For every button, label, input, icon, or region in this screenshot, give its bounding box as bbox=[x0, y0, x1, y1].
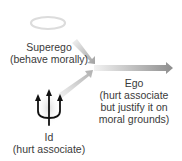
id-label: Id (hurt associate) bbox=[0, 131, 98, 155]
ego-line-1: (hurt associate bbox=[92, 89, 176, 101]
superego-label: Superego (behave morally) bbox=[0, 41, 98, 65]
id-title: Id bbox=[0, 131, 98, 143]
ego-label: Ego (hurt associate but justify it on mo… bbox=[92, 77, 176, 125]
halo-icon bbox=[31, 17, 65, 29]
superego-subtitle: (behave morally) bbox=[0, 53, 98, 65]
ego-title: Ego bbox=[92, 77, 176, 89]
id-subtitle: (hurt associate) bbox=[0, 143, 98, 155]
ego-line-3: moral grounds) bbox=[92, 113, 176, 125]
id-to-ego-arrow bbox=[58, 70, 93, 98]
ego-line-2: but justify it on bbox=[92, 101, 176, 113]
superego-title: Superego bbox=[0, 41, 98, 53]
ego-arrow bbox=[94, 62, 173, 74]
